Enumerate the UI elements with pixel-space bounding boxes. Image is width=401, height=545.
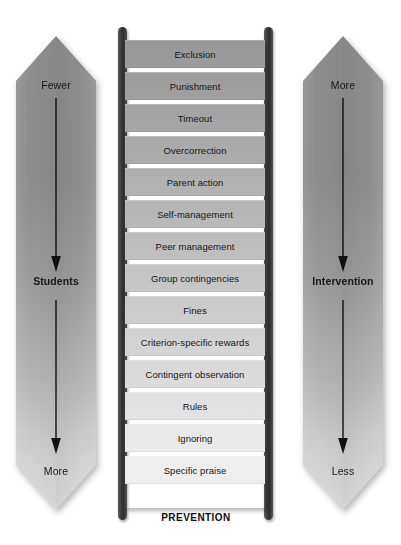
students-axis-title: Students xyxy=(16,276,96,287)
intervention-axis-bottom-label: Less xyxy=(303,466,383,477)
ladder-rung: Contingent observation xyxy=(125,360,265,388)
ladder-rung-label: Contingent observation xyxy=(146,369,245,380)
intervention-ladder: ExclusionPunishmentTimeoutOvercorrection… xyxy=(112,20,280,520)
ladder-rung-label: Specific praise xyxy=(164,465,227,476)
ladder-rung: Punishment xyxy=(125,72,265,100)
prevention-caption: PREVENTION xyxy=(112,512,280,523)
ladder-rung-label: Peer management xyxy=(156,241,235,252)
students-axis-shape xyxy=(16,36,96,510)
ladder-rung: Fines xyxy=(125,296,265,324)
intervention-axis-top-label: More xyxy=(303,80,383,91)
ladder-rung-label: Timeout xyxy=(178,113,212,124)
ladder-rail-right xyxy=(264,27,273,520)
students-axis-band: Fewer Students More xyxy=(16,36,96,510)
students-axis-top-label: Fewer xyxy=(16,80,96,91)
intervention-axis-band: More Intervention Less xyxy=(303,36,383,510)
ladder-rung: Group contingencies xyxy=(125,264,265,292)
ladder-rung: Peer management xyxy=(125,232,265,260)
ladder-rung: Criterion-specific rewards xyxy=(125,328,265,356)
ladder-rung-list: ExclusionPunishmentTimeoutOvercorrection… xyxy=(125,40,265,508)
ladder-rung-label: Parent action xyxy=(167,177,224,188)
ladder-rung-label: Self-management xyxy=(157,209,233,220)
ladder-rung: Parent action xyxy=(125,168,265,196)
ladder-rung: Ignoring xyxy=(125,424,265,452)
ladder-rung: Exclusion xyxy=(125,40,265,68)
ladder-rung-label: Fines xyxy=(183,305,206,316)
ladder-rung-label: Group contingencies xyxy=(151,273,239,284)
ladder-rung: Self-management xyxy=(125,200,265,228)
students-axis-bottom-label: More xyxy=(16,466,96,477)
ladder-rung: Rules xyxy=(125,392,265,420)
ladder-rung-label: Criterion-specific rewards xyxy=(141,337,249,348)
ladder-rung: Overcorrection xyxy=(125,136,265,164)
ladder-rung-label: Ignoring xyxy=(178,433,213,444)
ladder-rung-label: Punishment xyxy=(170,81,221,92)
intervention-axis-title: Intervention xyxy=(303,276,383,287)
intervention-axis-shape xyxy=(303,36,383,510)
ladder-rung-label: Exclusion xyxy=(174,49,215,60)
ladder-rung-label: Rules xyxy=(183,401,208,412)
ladder-rung: Timeout xyxy=(125,104,265,132)
ladder-rung: Specific praise xyxy=(125,456,265,484)
ladder-rung-label: Overcorrection xyxy=(164,145,227,156)
